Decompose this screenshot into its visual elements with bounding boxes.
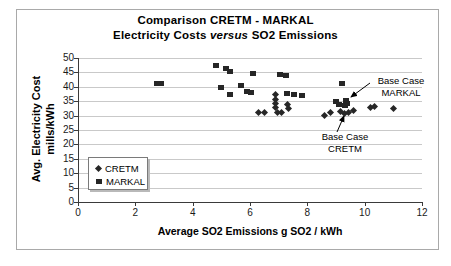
x-tick-label: 8: [295, 207, 319, 218]
y-axis-line: [78, 58, 79, 203]
data-point-markal: [250, 71, 256, 76]
x-tick-label: 10: [353, 207, 377, 218]
y-tick-label: 50: [50, 52, 74, 63]
y-tick-mark: [74, 58, 78, 59]
data-point-markal: [227, 69, 233, 74]
y-tick-label: 10: [50, 167, 74, 178]
data-point-markal: [284, 91, 290, 96]
chart-title: Comparison CRETM - MARKAL: [0, 13, 451, 28]
data-point-markal: [248, 90, 254, 95]
y-tick-label: 25: [50, 124, 74, 135]
data-point-markal: [339, 81, 345, 86]
y-tick-label: 45: [50, 66, 74, 77]
y-tick-mark: [74, 72, 78, 73]
y-tick-mark: [74, 101, 78, 102]
data-point-markal: [342, 103, 348, 108]
y-tick-mark: [74, 188, 78, 189]
x-tick-mark: [307, 202, 308, 206]
x-axis-title: Average SO2 Emissions g SO2 / kWh: [78, 225, 422, 237]
x-tick-label: 0: [66, 207, 90, 218]
x-tick-mark: [422, 202, 423, 206]
y-tick-label: 5: [50, 182, 74, 193]
data-point-markal: [213, 63, 219, 68]
square-marker-icon: [96, 179, 102, 184]
data-point-markal: [283, 73, 289, 78]
x-tick-label: 4: [181, 207, 205, 218]
y-tick-mark: [74, 144, 78, 145]
x-tick-label: 12: [410, 207, 434, 218]
annotation-base-case-cretm: Base Case CRETM: [305, 131, 385, 155]
legend: CRETM MARKAL: [88, 157, 148, 190]
data-point-markal: [158, 81, 164, 86]
data-point-markal: [218, 85, 224, 90]
x-tick-label: 6: [238, 207, 262, 218]
x-tick-mark: [78, 202, 79, 206]
y-tick-mark: [74, 159, 78, 160]
y-tick-mark: [74, 116, 78, 117]
gridline: [78, 116, 422, 117]
legend-item-markal: MARKAL: [96, 174, 145, 188]
legend-label-cretm: CRETM: [105, 163, 139, 174]
diamond-marker-icon: [95, 164, 102, 171]
y-tick-mark: [74, 173, 78, 174]
legend-label-markal: MARKAL: [106, 176, 145, 187]
chart-title-block: Comparison CRETM - MARKAL Electricity Co…: [0, 13, 451, 43]
chart-subtitle: Electricity Costs versus SO2 Emissions: [0, 28, 451, 43]
x-tick-label: 2: [123, 207, 147, 218]
y-tick-label: 40: [50, 81, 74, 92]
y-tick-label: 35: [50, 95, 74, 106]
y-tick-mark: [74, 130, 78, 131]
data-point-markal: [299, 93, 305, 98]
data-point-markal: [291, 92, 297, 97]
legend-item-cretm: CRETM: [96, 161, 139, 175]
x-tick-mark: [250, 202, 251, 206]
gridline: [78, 101, 422, 102]
chart-screenshot: Comparison CRETM - MARKAL Electricity Co…: [0, 0, 451, 266]
data-point-markal: [227, 92, 233, 97]
y-tick-label: 30: [50, 110, 74, 121]
y-tick-label: 15: [50, 153, 74, 164]
annotation-base-case-markal: Base Case MARKAL: [363, 75, 439, 99]
gridline: [78, 58, 422, 59]
x-tick-mark: [365, 202, 366, 206]
y-tick-mark: [74, 87, 78, 88]
y-tick-label: 0: [50, 196, 74, 207]
x-tick-mark: [193, 202, 194, 206]
x-tick-mark: [135, 202, 136, 206]
y-tick-label: 20: [50, 138, 74, 149]
data-point-markal: [238, 83, 244, 88]
